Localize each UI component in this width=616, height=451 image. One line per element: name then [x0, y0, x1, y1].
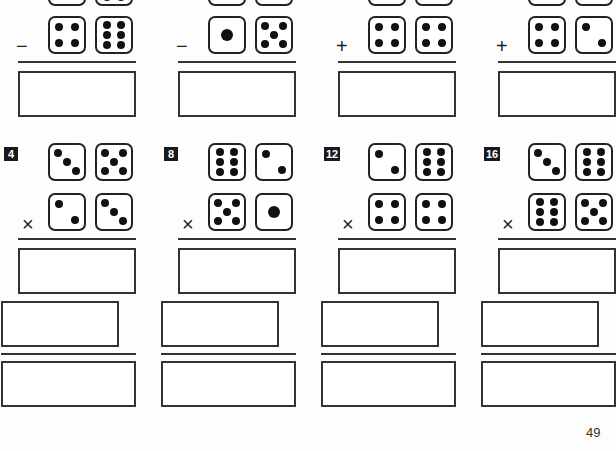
answer-box-2[interactable] [481, 301, 599, 347]
die [255, 193, 293, 231]
pip-dot [536, 198, 544, 206]
die [528, 193, 566, 231]
product-line [178, 238, 296, 240]
answer-box-total[interactable] [481, 361, 616, 407]
pip-dot [119, 217, 127, 225]
pip-dot [597, 148, 605, 156]
pip-dot [550, 208, 558, 216]
pip-dot [223, 208, 231, 216]
pip-dot [551, 39, 559, 47]
pip-dot [103, 21, 111, 29]
problem-number: 16 [484, 147, 500, 161]
answer-box[interactable] [18, 71, 136, 117]
pip-dot [423, 158, 431, 166]
pip-dot [103, 31, 111, 39]
product-line [338, 238, 456, 240]
pip-dot [230, 168, 238, 176]
answer-box[interactable] [178, 71, 296, 117]
pip-dot [550, 218, 558, 226]
sum-line [338, 61, 456, 63]
pip-dot [599, 199, 607, 207]
pip-dot [117, 31, 125, 39]
die [575, 143, 613, 181]
answer-box-1[interactable] [498, 248, 616, 294]
die [255, 143, 293, 181]
die-top-cut [575, 0, 613, 6]
pip-dot [437, 148, 445, 156]
answer-box-2[interactable] [1, 301, 119, 347]
pip-dot [262, 150, 270, 158]
operator-sign: × [502, 214, 514, 234]
pip-dot [598, 39, 606, 47]
answer-box-1[interactable] [338, 248, 456, 294]
pip-dot [214, 217, 222, 225]
answer-box-1[interactable] [18, 248, 136, 294]
pip-dot [536, 208, 544, 216]
pip-dot [71, 23, 79, 31]
pip-dot [590, 208, 598, 216]
pip-dot [103, 0, 111, 1]
operator-sign: − [176, 36, 188, 56]
die-top-cut [368, 0, 406, 6]
pip-dot [536, 218, 544, 226]
die-top-cut [48, 0, 86, 6]
total-line [1, 353, 136, 355]
die [415, 143, 453, 181]
pip-dot [422, 39, 430, 47]
pip-dot [261, 40, 269, 48]
answer-box[interactable] [498, 71, 616, 117]
pip-dot [119, 149, 127, 157]
product-line [498, 238, 616, 240]
pip-dot [422, 200, 430, 208]
pip-dot [117, 0, 125, 1]
answer-box-total[interactable] [161, 361, 296, 407]
pip-dot [438, 200, 446, 208]
product-line [18, 238, 136, 240]
pip-dot [597, 168, 605, 176]
pip-dot [232, 217, 240, 225]
answer-box-2[interactable] [321, 301, 439, 347]
pip-dot [103, 41, 111, 49]
die [528, 143, 566, 181]
pip-dot [581, 199, 589, 207]
die [415, 193, 453, 231]
die [48, 16, 86, 54]
pip-dot [119, 167, 127, 175]
pip-dot [582, 23, 590, 31]
answer-box-2[interactable] [161, 301, 279, 347]
die [208, 16, 246, 54]
answer-box-total[interactable] [321, 361, 456, 407]
pip-dot [583, 168, 591, 176]
die [415, 16, 453, 54]
pip-dot [437, 158, 445, 166]
pip-dot [375, 150, 383, 158]
pip-dot [391, 39, 399, 47]
answer-box-1[interactable] [178, 248, 296, 294]
pip-dot [438, 216, 446, 224]
sum-line [498, 61, 616, 63]
pip-dot [550, 198, 558, 206]
operator-sign: × [22, 214, 34, 234]
answer-box-total[interactable] [1, 361, 136, 407]
problem-number: 12 [324, 147, 340, 161]
die [528, 16, 566, 54]
pip-dot [375, 39, 383, 47]
die [575, 193, 613, 231]
answer-box[interactable] [338, 71, 456, 117]
die-top-cut [208, 0, 246, 6]
pip-dot [216, 158, 224, 166]
pip-dot [278, 166, 286, 174]
pip-dot [535, 23, 543, 31]
die-top-cut [95, 0, 133, 6]
die-top-cut [528, 0, 566, 6]
pip-dot [214, 199, 222, 207]
pip-dot [279, 22, 287, 30]
pip-dot [422, 23, 430, 31]
pip-dot [55, 23, 63, 31]
pip-dot [55, 39, 63, 47]
pip-dot [71, 39, 79, 47]
die [95, 193, 133, 231]
pip-dot [391, 216, 399, 224]
die [95, 143, 133, 181]
die [48, 143, 86, 181]
